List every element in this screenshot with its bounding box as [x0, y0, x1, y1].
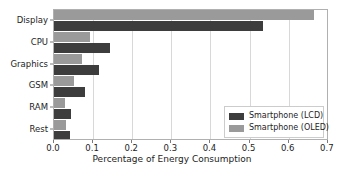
x-tick-mark	[170, 140, 171, 143]
energy-consumption-bar-chart: DisplayCPUGraphicsGSMRAMRest 0.00.10.20.…	[0, 0, 344, 171]
legend-swatch-oled-icon	[229, 125, 244, 132]
x-tick-mark	[209, 140, 210, 143]
x-tick-mark	[131, 140, 132, 143]
legend-label-oled: Smartphone (OLED)	[249, 124, 329, 132]
bar-rest-oled	[54, 120, 66, 130]
x-tick-label: 0.0	[46, 144, 60, 153]
x-tick-label: 0.2	[124, 144, 138, 153]
y-tick-label-cpu: CPU	[31, 38, 48, 47]
y-tick-label-display: Display	[17, 16, 48, 25]
bar-display-lcd	[54, 21, 263, 31]
bar-graphics-oled	[54, 54, 82, 64]
bar-cpu-lcd	[54, 43, 110, 53]
bar-display-oled	[54, 10, 314, 20]
bar-gsm-lcd	[54, 87, 85, 97]
bar-ram-lcd	[54, 109, 71, 119]
bar-graphics-lcd	[54, 65, 99, 75]
x-tick-label: 0.3	[164, 144, 178, 153]
x-tick-label: 0.7	[320, 144, 334, 153]
y-tick-label-rest: Rest	[29, 125, 48, 134]
x-tick-mark	[327, 140, 328, 143]
legend-label-lcd: Smartphone (LCD)	[249, 112, 323, 120]
y-tick-label-graphics: Graphics	[10, 59, 48, 68]
x-tick-mark	[53, 140, 54, 143]
legend-item-oled: Smartphone (OLED)	[229, 122, 319, 134]
y-tick-label-ram: RAM	[29, 103, 48, 112]
bar-rest-lcd	[54, 131, 70, 140]
x-tick-label: 0.1	[85, 144, 99, 153]
bar-gsm-oled	[54, 76, 74, 86]
bar-ram-oled	[54, 98, 65, 108]
x-tick-mark	[288, 140, 289, 143]
legend-item-lcd: Smartphone (LCD)	[229, 110, 319, 122]
x-axis-labels: 0.00.10.20.30.40.50.60.7	[53, 140, 328, 154]
x-tick-label: 0.5	[242, 144, 256, 153]
legend-swatch-lcd-icon	[229, 113, 244, 120]
x-axis-title: Percentage of Energy Consumption	[0, 155, 344, 164]
bar-cpu-oled	[54, 32, 90, 42]
x-tick-mark	[249, 140, 250, 143]
y-tick-label-gsm: GSM	[29, 81, 48, 90]
x-tick-mark	[92, 140, 93, 143]
x-tick-label: 0.6	[281, 144, 295, 153]
legend: Smartphone (LCD) Smartphone (OLED)	[224, 106, 324, 138]
y-axis-labels: DisplayCPUGraphicsGSMRAMRest	[0, 9, 53, 140]
x-tick-label: 0.4	[203, 144, 217, 153]
